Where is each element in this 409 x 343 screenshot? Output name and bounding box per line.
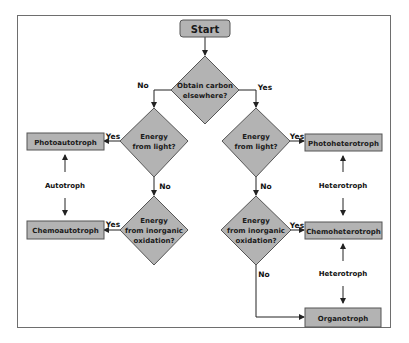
group-label-autotroph: Autotroph <box>45 182 85 190</box>
group-label-heterotroph-lower: Heterotroph <box>319 270 368 278</box>
decision-text-line3: oxidation? <box>235 237 276 245</box>
decision-text-line1: Energy <box>140 217 168 225</box>
edge-carbon-yes <box>239 90 256 107</box>
result-label: Photoautotroph <box>34 139 97 147</box>
group-label-heterotroph-upper: Heterotroph <box>319 182 368 190</box>
edge-label-carbon-no: No <box>137 81 148 90</box>
result-label: Photoheterotroph <box>308 140 379 148</box>
decision-energy-light-right: Energy from light? <box>222 108 290 177</box>
result-photoautotroph: Photoautotroph <box>27 133 104 150</box>
decision-text-line1: Energy <box>242 217 270 225</box>
result-label: Chemoautotroph <box>32 227 98 235</box>
edge-label-light-right-no: No <box>260 182 271 191</box>
decision-inorganic-oxidation-right: Energy from inorganic oxidation? <box>221 196 291 265</box>
decision-text-line1: Energy <box>140 133 168 141</box>
edge-carbon-no <box>154 90 171 107</box>
result-photoheterotroph: Photoheterotroph <box>305 134 382 151</box>
decision-text-line2: from inorganic <box>125 227 183 235</box>
result-label: Chemoheterotroph <box>306 228 381 236</box>
decision-text-line1: Obtain carbon <box>177 82 233 90</box>
result-label: Organotroph <box>318 315 369 323</box>
decision-text-line2: from inorganic <box>227 227 285 235</box>
result-chemoheterotroph: Chemoheterotroph <box>305 222 382 239</box>
decision-text-line2: from light? <box>132 143 175 151</box>
start-node: Start <box>180 20 230 37</box>
edge-label-light-left-no: No <box>159 182 170 191</box>
flowchart-canvas: Start Obtain carbon elsewhere? Energy fr… <box>0 0 409 343</box>
decision-text-line2: elsewhere? <box>183 92 228 100</box>
edge-label-light-right-yes: Yes <box>289 132 305 141</box>
edge-label-inorg-left-yes: Yes <box>105 220 121 229</box>
decision-obtain-carbon: Obtain carbon elsewhere? <box>171 56 239 124</box>
decision-text-line2: from light? <box>234 143 277 151</box>
result-organotroph: Organotroph <box>305 308 381 327</box>
edge-label-carbon-yes: Yes <box>257 83 273 92</box>
edge-label-light-left-yes: Yes <box>105 132 121 141</box>
decision-inorganic-oxidation-left: Energy from inorganic oxidation? <box>120 196 188 265</box>
decision-energy-light-left: Energy from light? <box>120 108 188 177</box>
edge-label-inorg-right-no: No <box>258 270 269 279</box>
decision-text-line3: oxidation? <box>133 237 174 245</box>
start-label: Start <box>191 24 220 35</box>
decision-text-line1: Energy <box>242 133 270 141</box>
result-chemoautotroph: Chemoautotroph <box>27 221 104 239</box>
edge-label-inorg-right-yes: Yes <box>289 221 305 230</box>
